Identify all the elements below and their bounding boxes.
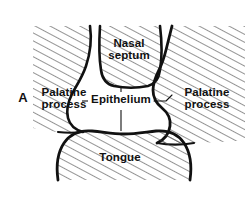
label-palatine-process-left: Palatine process: [33, 86, 95, 110]
panel-letter-a: A: [15, 91, 31, 105]
anatomy-figure-panel-a: A Nasal septum Palatine process Palatine…: [0, 0, 249, 197]
label-epithelium: Epithelium: [90, 93, 152, 105]
label-tongue: Tongue: [94, 151, 146, 163]
region-palatine-process-left: [33, 26, 91, 133]
label-palatine-process-right: Palatine process: [176, 86, 238, 110]
label-nasal-septum: Nasal septum: [100, 37, 158, 61]
